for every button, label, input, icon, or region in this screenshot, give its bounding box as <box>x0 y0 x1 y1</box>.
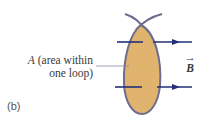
figure-canvas: A (area within one loop) → B (b) <box>0 0 207 117</box>
current-loop <box>124 25 160 114</box>
area-label-line2: one loop) <box>49 67 93 80</box>
arrowhead-icon <box>172 84 180 90</box>
panel-label: (b) <box>7 100 20 112</box>
field-label-b: B <box>185 62 194 74</box>
area-label-line1: A (area within <box>27 54 93 67</box>
arrowhead-icon <box>172 39 180 45</box>
